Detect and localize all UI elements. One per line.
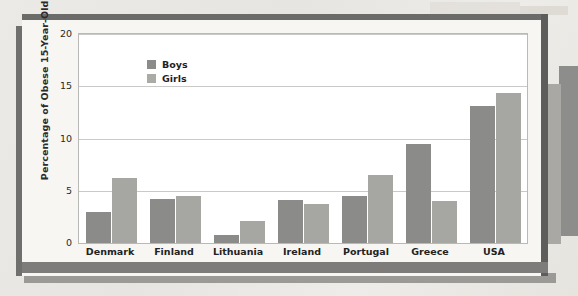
y-tick-label: 10 (60, 132, 72, 143)
legend-label-girls: Girls (162, 73, 187, 84)
y-tick-label: 20 (60, 28, 72, 39)
bar-group (79, 34, 143, 243)
x-tick-label-ireland: Ireland (270, 246, 334, 257)
bar-group (399, 34, 463, 243)
bar-chart: Percentage of Obese 15-Year-Olds 0510152… (22, 20, 541, 268)
x-tick-label-greece: Greece (398, 246, 462, 257)
legend-swatch-boys (147, 60, 156, 69)
bar-ireland-boys (278, 200, 303, 243)
legend-item-boys: Boys (147, 58, 188, 71)
bar-lithuania-girls (240, 221, 265, 243)
bar-ireland-girls (304, 204, 329, 243)
bar-usa-boys (470, 106, 495, 243)
plot-area: Boys Girls (78, 33, 528, 244)
bar-lithuania-boys (214, 235, 239, 243)
legend-swatch-girls (147, 74, 156, 83)
bar-denmark-girls (112, 178, 137, 243)
bar-portugal-boys (342, 196, 367, 243)
legend-label-boys: Boys (162, 59, 188, 70)
x-tick-label-lithuania: Lithuania (206, 246, 270, 257)
y-axis-tick-labels: 05101520 (22, 20, 78, 231)
y-tick-label: 0 (66, 237, 72, 248)
bar-greece-girls (432, 201, 457, 243)
figure-frame-right (541, 14, 548, 276)
bar-group (463, 34, 527, 243)
x-tick-label-portugal: Portugal (334, 246, 398, 257)
bar-greece-boys (406, 144, 431, 243)
legend-item-girls: Girls (147, 72, 188, 85)
bar-denmark-boys (86, 212, 111, 243)
bar-group (271, 34, 335, 243)
page-shadow-right (559, 66, 578, 236)
chart-legend: Boys Girls (147, 58, 188, 86)
x-tick-label-denmark: Denmark (78, 246, 142, 257)
y-tick-label: 15 (60, 80, 72, 91)
x-tick-label-finland: Finland (142, 246, 206, 257)
bar-portugal-girls (368, 175, 393, 243)
bar-finland-boys (150, 199, 175, 243)
y-tick-label: 5 (66, 184, 72, 195)
bar-usa-girls (496, 93, 521, 243)
x-axis-tick-labels: DenmarkFinlandLithuaniaIrelandPortugalGr… (78, 246, 528, 266)
bar-finland-girls (176, 196, 201, 243)
scan-smudge-top (430, 2, 520, 14)
bar-group (335, 34, 399, 243)
bar-group (207, 34, 271, 243)
x-tick-label-usa: USA (462, 246, 526, 257)
